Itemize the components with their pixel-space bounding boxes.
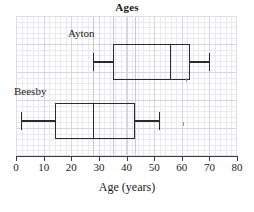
median-beesby — [93, 103, 95, 139]
x-tick-label-0: 0 — [4, 161, 28, 173]
chart-title: Ages — [0, 1, 254, 13]
x-tick-label-10: 10 — [32, 161, 56, 173]
x-tick-label-40: 40 — [115, 161, 139, 173]
whisker-cap-max-beesby — [159, 112, 161, 130]
series-label-beesby: Beesby — [14, 85, 46, 97]
x-tick-label-50: 50 — [142, 161, 166, 173]
whisker-cap-min-ayton — [93, 53, 95, 71]
x-tick-label-80: 80 — [225, 161, 249, 173]
whisker-upper-ayton — [190, 61, 209, 63]
guide-line-43 — [135, 16, 136, 156]
whisker-lower-beesby — [22, 120, 55, 122]
boxplot-chart: Ages AytonBeesby 01020304050607080 Age (… — [0, 0, 254, 212]
box-beesby — [55, 103, 135, 139]
whisker-cap-min-beesby — [21, 112, 23, 130]
whisker-cap-max-ayton — [209, 53, 211, 71]
scan-speck — [186, 78, 187, 82]
x-axis-title: Age (years) — [0, 180, 254, 195]
box-ayton — [113, 44, 190, 80]
x-tick-label-70: 70 — [197, 161, 221, 173]
scan-speck — [183, 122, 184, 126]
x-tick-label-60: 60 — [170, 161, 194, 173]
series-label-ayton: Ayton — [68, 27, 95, 39]
median-ayton — [170, 44, 172, 80]
x-tick-label-20: 20 — [59, 161, 83, 173]
whisker-lower-ayton — [93, 61, 112, 63]
x-tick-label-30: 30 — [87, 161, 111, 173]
whisker-upper-beesby — [135, 120, 160, 122]
